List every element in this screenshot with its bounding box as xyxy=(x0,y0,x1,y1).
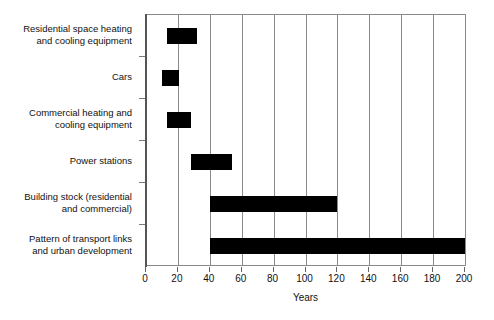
bar-1 xyxy=(162,70,180,86)
x-axis-tick-120 xyxy=(336,267,337,272)
category-label-line: and cooling equipment xyxy=(36,35,132,46)
x-axis-tick-60 xyxy=(241,267,242,272)
x-axis-tick-label-200: 200 xyxy=(444,273,484,285)
category-label-line: and commercial) xyxy=(62,203,132,214)
gridline-160 xyxy=(401,15,402,265)
category-label-building-stock: Building stock (residential and commerci… xyxy=(0,191,132,215)
gridline-40 xyxy=(210,15,211,265)
category-label-power-stations: Power stations xyxy=(0,155,132,167)
y-axis-tick-1 xyxy=(139,56,145,57)
gridline-200 xyxy=(465,15,466,265)
category-label-line: cooling equipment xyxy=(55,119,132,130)
category-label-residential-space-heating: Residential space heating and cooling eq… xyxy=(0,23,132,47)
gridline-120 xyxy=(337,15,338,265)
x-axis-tick-40 xyxy=(209,267,210,272)
bar-4 xyxy=(210,196,338,212)
x-axis-tick-80 xyxy=(273,267,274,272)
x-axis-tick-140 xyxy=(368,267,369,272)
x-axis-tick-160 xyxy=(400,267,401,272)
x-axis-tick-200 xyxy=(464,267,465,272)
category-label-line: Residential space heating xyxy=(23,23,132,34)
y-axis-tick-3 xyxy=(139,140,145,141)
y-axis-tick-4 xyxy=(139,182,145,183)
x-axis-tick-100 xyxy=(305,267,306,272)
category-label-line: Building stock (residential xyxy=(24,191,132,202)
x-axis-tick-20 xyxy=(177,267,178,272)
category-label-line: Cars xyxy=(112,71,132,82)
bar-2 xyxy=(167,112,191,128)
category-label-commercial-heating: Commercial heating and cooling equipment xyxy=(0,107,132,131)
gridline-100 xyxy=(306,15,307,265)
y-axis-tick-5 xyxy=(139,224,145,225)
bar-3 xyxy=(191,154,232,170)
gridline-60 xyxy=(242,15,243,265)
plot-area xyxy=(145,14,466,266)
y-axis-tick-2 xyxy=(139,98,145,99)
gridline-180 xyxy=(433,15,434,265)
x-axis-tick-180 xyxy=(432,267,433,272)
gridline-20 xyxy=(178,15,179,265)
gridline-80 xyxy=(274,15,275,265)
range-bar-chart: Residential space heating and cooling eq… xyxy=(0,0,494,320)
category-label-line: Commercial heating and xyxy=(29,107,132,118)
category-axis-labels: Residential space heating and cooling eq… xyxy=(0,14,138,266)
x-axis-title: Years xyxy=(145,292,466,303)
bar-0 xyxy=(167,28,197,44)
category-label-line: Pattern of transport links xyxy=(29,233,132,244)
gridline-140 xyxy=(369,15,370,265)
x-axis-tick-0 xyxy=(145,267,146,272)
category-label-transport-links: Pattern of transport links and urban dev… xyxy=(0,233,132,257)
category-label-cars: Cars xyxy=(0,71,132,83)
category-label-line: and urban development xyxy=(32,245,132,256)
bar-5 xyxy=(210,238,465,254)
y-axis-spine xyxy=(145,14,147,267)
category-label-line: Power stations xyxy=(70,155,132,166)
